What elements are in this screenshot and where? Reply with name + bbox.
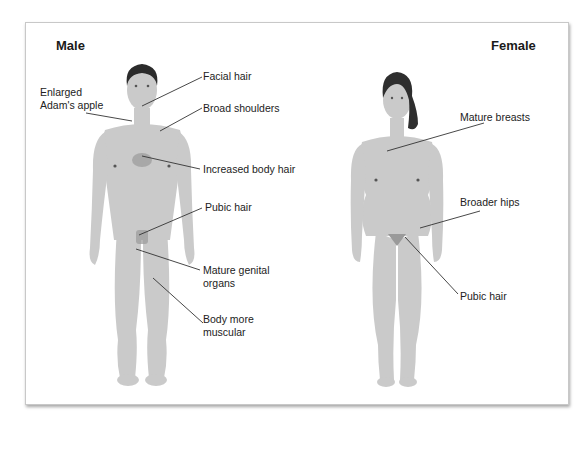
label-adams-apple: Enlarged Adam's apple <box>40 86 103 112</box>
label-facial-hair: Facial hair <box>203 70 251 83</box>
label-male-pubic-hair: Pubic hair <box>205 201 252 214</box>
label-mature-genital-organs: Mature genital organs <box>203 264 270 290</box>
label-broad-shoulders: Broad shoulders <box>203 102 279 115</box>
male-title: Male <box>56 38 85 53</box>
figures-illustration <box>0 0 578 453</box>
female-title: Female <box>491 38 536 53</box>
label-female-pubic-hair: Pubic hair <box>460 290 507 303</box>
male-figure <box>90 70 195 386</box>
label-mature-breasts: Mature breasts <box>460 111 530 124</box>
label-body-more-muscular: Body more muscular <box>203 313 254 339</box>
label-broader-hips: Broader hips <box>460 196 520 209</box>
label-increased-body-hair: Increased body hair <box>203 163 295 176</box>
